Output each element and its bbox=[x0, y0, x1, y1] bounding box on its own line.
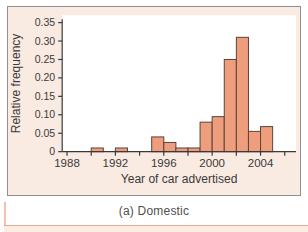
x-tick-label: 1996 bbox=[151, 157, 177, 169]
y-tick-label: 0.30 bbox=[35, 35, 56, 47]
histogram-bar bbox=[200, 122, 212, 152]
x-tick-label: 2004 bbox=[248, 157, 274, 169]
y-tick-label: 0.05 bbox=[35, 127, 56, 139]
y-tick-label: 0.25 bbox=[35, 53, 56, 65]
y-tick-label: 0.15 bbox=[35, 90, 56, 102]
y-tick-label: 0.35 bbox=[35, 16, 56, 28]
y-axis-title: Relative frequency bbox=[9, 34, 23, 134]
figure-page: 00.050.100.150.200.250.300.3519881992199… bbox=[0, 0, 308, 232]
histogram-bar bbox=[248, 131, 260, 151]
x-tick-label: 1988 bbox=[54, 157, 80, 169]
x-tick-label: 1992 bbox=[103, 157, 129, 169]
histogram-bar bbox=[261, 127, 273, 152]
histogram-bar bbox=[224, 59, 236, 151]
y-tick-label: 0.10 bbox=[35, 108, 56, 120]
x-tick-label: 2000 bbox=[199, 157, 225, 169]
y-tick-label: 0.20 bbox=[35, 71, 56, 83]
histogram-chart: 00.050.100.150.200.250.300.3519881992199… bbox=[8, 7, 300, 195]
histogram-bar bbox=[152, 137, 164, 152]
x-axis-title: Year of car advertised bbox=[121, 172, 238, 186]
y-tick-label: 0 bbox=[49, 145, 55, 157]
figure-caption: (a) Domestic bbox=[0, 204, 308, 218]
next-panel-top-edge bbox=[4, 225, 308, 232]
figure-panel: 00.050.100.150.200.250.300.3519881992199… bbox=[7, 6, 301, 196]
histogram-bar bbox=[236, 37, 248, 151]
histogram-bar bbox=[212, 117, 224, 152]
histogram-bar bbox=[164, 142, 176, 151]
